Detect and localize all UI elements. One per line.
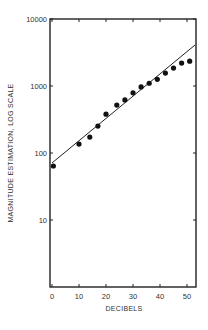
- regression-line: [52, 45, 195, 163]
- data-point: [87, 134, 92, 139]
- magnitude-estimation-chart: 10100100010000 01020304050 DECIBELS MAGN…: [0, 0, 208, 330]
- data-point: [179, 60, 184, 65]
- data-point: [76, 141, 81, 146]
- x-axis-label: DECIBELS: [105, 305, 142, 312]
- data-point: [171, 65, 176, 70]
- y-tick-label: 100: [34, 149, 47, 158]
- data-point: [103, 112, 108, 117]
- y-tick-label: 10: [39, 216, 47, 225]
- data-point: [139, 84, 144, 89]
- data-point: [114, 102, 119, 107]
- y-axis-ticks: 10100100010000: [26, 15, 196, 225]
- data-points: [51, 59, 193, 169]
- data-point: [147, 81, 152, 86]
- plot-frame: [50, 19, 196, 287]
- plot-border: [50, 19, 196, 287]
- data-point: [95, 124, 100, 129]
- x-axis-ticks: 01020304050: [50, 19, 191, 301]
- data-point: [130, 90, 135, 95]
- data-point: [122, 97, 127, 102]
- data-point: [187, 59, 192, 64]
- x-tick-label: 30: [129, 292, 137, 301]
- x-tick-label: 0: [50, 292, 54, 301]
- fit-line: [52, 45, 195, 163]
- x-tick-label: 40: [156, 292, 164, 301]
- x-tick-label: 10: [75, 292, 83, 301]
- y-axis-label: MAGNITUDE ESTIMATION, LOG SCALE: [7, 83, 14, 222]
- x-tick-label: 20: [102, 292, 110, 301]
- data-point: [163, 70, 168, 75]
- data-point: [155, 77, 160, 82]
- y-tick-label: 1000: [30, 82, 47, 91]
- x-tick-label: 50: [183, 292, 191, 301]
- data-point: [51, 163, 56, 168]
- y-tick-label: 10000: [26, 15, 47, 24]
